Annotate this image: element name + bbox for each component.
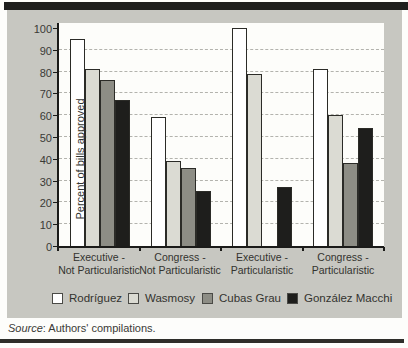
legend-swatch [128,293,139,304]
plot-area: Percent of bills approved [57,23,384,248]
legend-label: Cubas Grau [219,292,281,304]
bar-cubas-grau [100,80,115,246]
y-tick-label: 20 [0,196,52,210]
legend-item: Rodríguez [52,291,122,305]
legend-swatch [287,293,298,304]
legend-swatch [52,293,63,304]
y-tick-mark [53,202,58,203]
bar-group [222,23,303,246]
y-tick-mark [53,93,58,94]
legend-label: Rodríguez [69,292,122,304]
bar-cubas-grau [181,168,196,246]
y-tick-label: 80 [0,66,52,80]
legend-label: González Macchi [304,292,392,304]
figure: Percent of bills approved 01020304050607… [0,0,408,348]
bar-group [303,23,384,246]
y-tick-mark [53,137,58,138]
y-tick-mark [53,115,58,116]
legend-item: Cubas Grau [202,291,281,305]
bar-group [59,23,140,246]
figure-top-rule [4,2,408,10]
bar-groups [59,23,384,246]
source-label: Source [8,322,43,334]
y-tick-mark [53,28,58,29]
category-label-line: Particularistic [278,264,408,277]
y-tick-label: 10 [0,218,52,232]
y-tick-mark [53,50,58,51]
bar-group [140,23,221,246]
bar-wasmosy [166,161,181,246]
y-tick-mark [53,159,58,160]
y-tick-mark [53,72,58,73]
y-tick-mark [53,181,58,182]
bar-rodr-guez [313,69,328,246]
bar-gonz-lez-macchi [358,128,373,246]
source-body: : Authors' compilations. [43,322,156,334]
bar-gonz-lez-macchi [277,187,292,246]
legend-label: Wasmosy [145,292,195,304]
y-axis-title: Percent of bills approved [74,79,90,239]
y-tick-mark [53,224,58,225]
bar-gonz-lez-macchi [196,191,211,246]
y-tick-label: 40 [0,153,52,167]
bar-wasmosy [328,115,343,246]
source-strip: Source: Authors' compilations. [0,318,408,339]
bar-wasmosy [247,74,262,246]
legend-swatch [202,293,213,304]
bar-cubas-grau [343,163,358,246]
source-line: Source: Authors' compilations. [8,322,156,334]
y-tick-label: 60 [0,109,52,123]
legend-item: González Macchi [287,291,392,305]
bar-rodr-guez [232,28,247,246]
category-label-line: Congress - [278,251,408,264]
y-tick-label: 30 [0,175,52,189]
figure-bottom-rule [0,339,404,343]
y-tick-label: 70 [0,87,52,101]
bar-rodr-guez [151,117,166,246]
y-tick-label: 90 [0,44,52,58]
y-tick-label: 100 [0,22,52,36]
y-tick-label: 50 [0,131,52,145]
bar-gonz-lez-macchi [115,100,130,246]
category-label: Congress -Particularistic [278,251,408,277]
legend-item: Wasmosy [128,291,195,305]
